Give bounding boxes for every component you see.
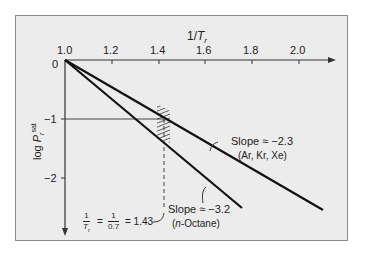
leader-equation xyxy=(153,213,164,222)
equation-fraction-1-over-tr: 1 Tr xyxy=(83,212,90,233)
equation-equals: = xyxy=(97,217,103,227)
y-tick-label: −2 xyxy=(44,173,57,184)
x-tick-label: 1.2 xyxy=(103,45,118,56)
x-tick-label: 1.6 xyxy=(196,45,211,56)
slope-label-3-2: Slope ≈ −3.2 xyxy=(168,204,230,215)
y-axis-arrow-icon xyxy=(62,228,68,236)
x-tick-label: 1.0 xyxy=(57,45,72,56)
species-label-n-octane: (n-Octane) xyxy=(172,219,220,229)
equation-fraction-1-over-0-7: 1 0.7 xyxy=(108,212,119,231)
line-slope-3-2 xyxy=(65,60,242,208)
x-tick-label: 1.8 xyxy=(243,45,258,56)
leader-slope-3-2 xyxy=(202,187,206,203)
x-tick-label: 1.4 xyxy=(150,45,165,56)
equation-result: = 1.43 xyxy=(125,217,153,227)
y-tick-label: 0 xyxy=(52,59,58,70)
x-tick-label: 2.0 xyxy=(290,45,305,56)
slope-label-2-3: Slope ≈ −2.3 xyxy=(231,136,293,147)
x-axis-arrow-icon xyxy=(328,57,336,63)
y-axis-title: log Prsat xyxy=(30,123,45,160)
y-tick-label: −1 xyxy=(44,114,57,125)
species-label-ar-kr-xe: (Ar, Kr, Xe) xyxy=(238,151,287,161)
